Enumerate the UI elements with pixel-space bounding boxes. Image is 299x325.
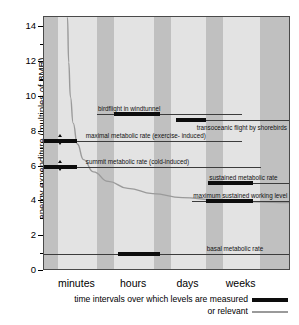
level-rule [44,254,290,255]
interval-bar [206,199,253,203]
y-axis-tick-label: 6 [14,161,36,171]
legend-relevant-swatch [252,311,288,313]
interval-bar [114,112,160,116]
y-axis-major-tick [38,270,43,271]
y-axis-tick-label: 14 [14,21,36,31]
y-axis-tick-label: 10 [14,91,36,101]
decay-curve [44,17,290,270]
series-label: basal metabolic rate [207,245,263,252]
interval-bar [208,181,252,185]
x-axis-tick-label: minutes [46,277,106,289]
series-label: sustained metabolic rate [209,174,277,181]
legend-measured-swatch [252,298,288,302]
interval-bar [176,118,206,122]
y-axis-tick-label: 2 [14,230,36,240]
series-label: maximum sustained working level [193,192,287,199]
y-axis-tick-label: 0 [14,265,36,275]
series-label: birdflight in windtunnel [98,105,160,112]
range-arrow-up-icon [58,134,62,137]
range-arrow-down-icon [58,168,62,171]
range-arrow-up-icon [58,160,62,163]
x-axis-tick-label: hours [103,277,163,289]
y-axis-tick-label: 4 [14,195,36,205]
y-axis-tick-label: 12 [14,56,36,66]
range-arrow-down-icon [58,142,62,145]
x-axis-tick-label: weeks [211,277,271,289]
series-label: maximal metabolic rate (exercise- induce… [86,132,206,139]
legend-measured-label: time intervals over which levels are mea… [40,294,248,305]
interval-bar [118,252,160,256]
metabolic-rate-chart: energy expenditure (multiples of BMR) 02… [0,0,299,325]
legend-relevant-label: or relevant [40,306,248,317]
x-axis-tick-label: days [157,277,217,289]
series-label: summit metabolic rate (cold-induced) [86,158,189,165]
plot-area: birdflight in windtunneltransoceanic fli… [43,16,290,270]
y-axis-tick-label: 8 [14,126,36,136]
series-label: transoceanic flight by shorebirds [197,124,287,131]
